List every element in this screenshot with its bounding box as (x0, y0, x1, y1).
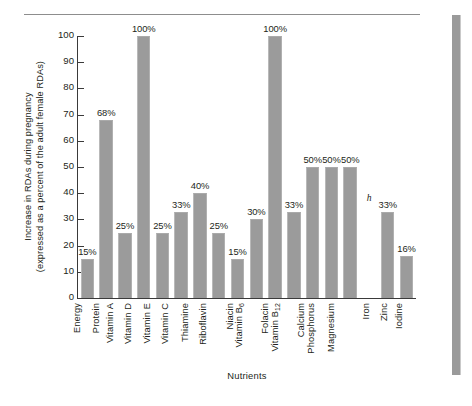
bar-value-label: 33% (285, 199, 303, 210)
x-axis-category-label: Calcium (296, 303, 306, 337)
bar-value-label: 50% (303, 154, 321, 165)
x-axis-category-label: Thiamine (181, 303, 191, 342)
bar (381, 212, 394, 298)
y-axis-tick-label: 10 (52, 265, 74, 276)
bar-value-label: 100% (132, 23, 156, 34)
bar-value-label: 15% (78, 246, 96, 257)
bar-group: 100%Vitamin D (134, 36, 153, 298)
bar (212, 233, 225, 299)
y-axis-title-line-2: (expressed as a percent of the adult fem… (35, 22, 47, 312)
y-axis-tick-label: 60 (52, 134, 74, 145)
y-axis-tick-label: 80 (52, 81, 74, 92)
x-axis-category-label: Energy (72, 303, 82, 333)
bar (81, 259, 94, 298)
bar-value-label: 50% (322, 154, 340, 165)
x-axis-category-label: Folacin (260, 303, 270, 334)
y-axis-title-line-1: Increase in RDAs during pregnancy (23, 22, 35, 312)
bar (400, 256, 413, 298)
bar-group: 33%Vitamin B12 (285, 36, 304, 298)
plot-area: 1009080706050403020100 15%Energy68%Prote… (78, 36, 416, 298)
bar-group: 25%Vitamin A (116, 36, 135, 298)
bar-group: 33%Zinc (378, 36, 397, 298)
bar-group: 100%Folacin (266, 36, 285, 298)
bar (99, 120, 112, 298)
bar-group: 50%Magnesium (341, 36, 360, 298)
bar-value-label: 68% (97, 107, 115, 118)
page-edge-artifact (452, 15, 461, 375)
bar (287, 212, 300, 298)
y-axis-tick-label: 0 (52, 291, 74, 302)
bar-group: 33%Vitamin C (172, 36, 191, 298)
bar (193, 193, 206, 298)
y-axis-tick-label: 40 (52, 186, 74, 197)
bar-value-label: 25% (153, 220, 171, 231)
bar-value-label: 33% (379, 199, 397, 210)
bar (343, 167, 356, 298)
x-axis-category-label: Iodine (394, 303, 404, 329)
bar-value-label: 16% (397, 243, 415, 254)
x-axis-category-label: Phosphorus (306, 303, 316, 354)
x-axis-title: Nutrients (78, 370, 416, 381)
bar-group: 68%Protein (97, 36, 116, 298)
y-axis-tick-label: 100 (52, 29, 74, 40)
x-axis-category-label: Vitamin E (142, 303, 152, 344)
bar (174, 212, 187, 298)
bar-value-label: 50% (341, 154, 359, 165)
bar-value-label: 25% (116, 220, 134, 231)
bar-group: 40%Thiamine (191, 36, 210, 298)
y-axis-tick-label: 20 (52, 239, 74, 250)
bar-group: 16%Iodine (397, 36, 416, 298)
bar (118, 233, 131, 299)
bar-group: 15%Energy (78, 36, 97, 298)
x-axis-line (77, 298, 416, 299)
bar-chart-figure: Increase in RDAs during pregnancy (expre… (0, 0, 452, 406)
bar-value-label: 25% (210, 220, 228, 231)
bar-group: 30%Vitamin B6 (247, 36, 266, 298)
bar-group: 50%Calcium (303, 36, 322, 298)
y-axis-tick-label: 30 (52, 212, 74, 223)
bar-value-label: 15% (228, 246, 246, 257)
bar-group: 50%Phosphorus (322, 36, 341, 298)
bar-value-label: 100% (263, 23, 287, 34)
bar-value-label: 40% (191, 180, 209, 191)
y-axis-tick-label: 70 (52, 108, 74, 119)
y-axis-title: Increase in RDAs during pregnancy (expre… (23, 22, 46, 312)
x-axis-category-label: Magnesium (326, 303, 336, 352)
x-axis-category-label: Vitamin B12 (270, 303, 280, 352)
footnote-marker: h (367, 192, 372, 203)
bar-series: 15%Energy68%Protein25%Vitamin A100%Vitam… (78, 36, 416, 298)
y-axis-tick: 0 (78, 298, 84, 299)
x-axis-category-label: Vitamin C (161, 303, 171, 344)
bar-group: 15%Niacin (228, 36, 247, 298)
x-axis-category-label: Zinc (379, 303, 389, 321)
x-axis-category-label: Vitamin D (123, 303, 133, 344)
bar-value-label: 30% (247, 206, 265, 217)
bar (268, 36, 281, 298)
bar (325, 167, 338, 298)
bar-group: 25%Riboflavin (209, 36, 228, 298)
x-axis-category-label: Protein (91, 303, 101, 333)
bar (137, 36, 150, 298)
bar-group: 25%Vitamin E (153, 36, 172, 298)
bar (250, 219, 263, 298)
x-axis-category-label: Riboflavin (198, 303, 208, 345)
x-axis-category-label: Iron (361, 303, 371, 319)
x-axis-category-label: Vitamin A (105, 303, 115, 343)
y-axis-tick-label: 50 (52, 160, 74, 171)
bar (231, 259, 244, 298)
x-axis-category-label: Vitamin B6 (234, 303, 244, 348)
bar-value-label: 33% (172, 199, 190, 210)
bar-group: hIron (360, 36, 379, 298)
bar (306, 167, 319, 298)
y-axis-tick-label: 90 (52, 55, 74, 66)
bar (156, 233, 169, 299)
